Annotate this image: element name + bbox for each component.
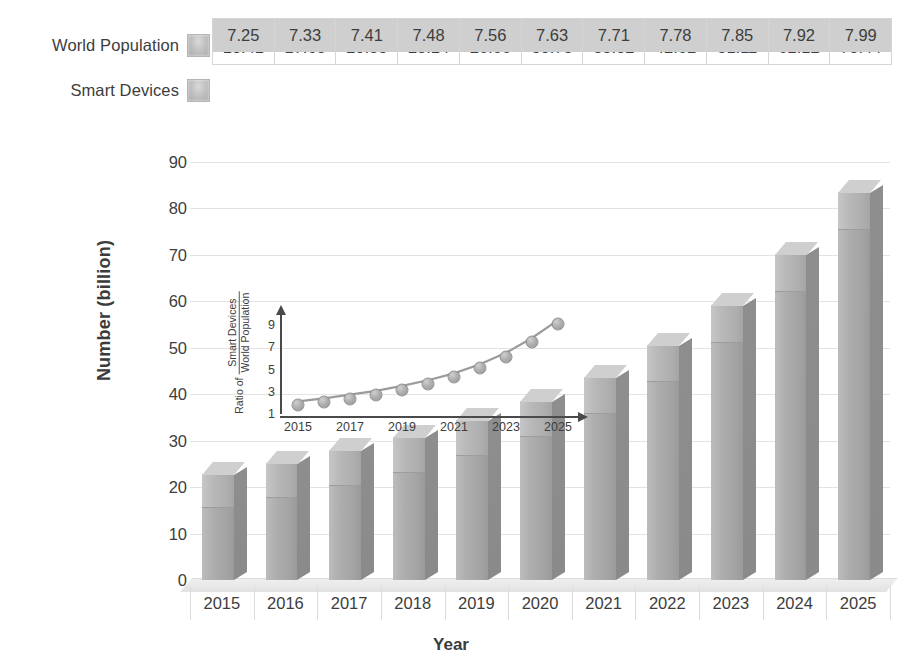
world-population-cell: 7.85 bbox=[707, 19, 769, 52]
inset-data-point bbox=[422, 378, 435, 391]
x-tick-label: 2021 bbox=[585, 594, 622, 613]
inset-y-tick-label: 9 bbox=[268, 318, 275, 332]
inset-plot-area: 13579 201520172019202120232025 bbox=[280, 314, 590, 418]
x-tick-divider bbox=[826, 586, 827, 620]
x-axis-title: Year bbox=[0, 635, 902, 655]
data-table: 7.257.337.417.487.567.637.717.787.857.92… bbox=[212, 18, 892, 113]
legend-label-world-population: World Population bbox=[52, 36, 179, 55]
y-tick-label: 50 bbox=[147, 338, 187, 357]
legend-item-smart-devices: Smart Devices bbox=[70, 79, 210, 102]
bar-segment-world-population bbox=[711, 305, 743, 342]
figure-root: World Population Smart Devices 7.257.337… bbox=[0, 0, 902, 665]
y-tick-label: 70 bbox=[147, 245, 187, 264]
inset-x-tick-label: 2021 bbox=[440, 420, 468, 434]
x-tick-label: 2017 bbox=[331, 594, 368, 613]
bar-side-face bbox=[234, 467, 247, 580]
bar-segment-world-population bbox=[266, 463, 298, 498]
x-tick-divider bbox=[317, 586, 318, 620]
bar-column bbox=[202, 475, 234, 580]
inset-data-point bbox=[396, 383, 409, 396]
bar-segment-world-population bbox=[202, 474, 234, 509]
legend-swatch-icon-world-population bbox=[187, 34, 210, 57]
world-population-cell: 7.99 bbox=[830, 19, 892, 52]
y-axis-title: Number (billion) bbox=[94, 201, 115, 421]
x-tick-label: 2023 bbox=[713, 594, 750, 613]
bar-front-face bbox=[838, 193, 870, 580]
bar-column bbox=[711, 306, 743, 580]
legend-item-world-population: World Population bbox=[52, 34, 210, 57]
inset-x-tick-label: 2017 bbox=[336, 420, 364, 434]
bar-column bbox=[647, 346, 679, 580]
y-tick-label: 40 bbox=[147, 385, 187, 404]
bar-side-face bbox=[297, 456, 310, 580]
bar-side-face bbox=[361, 443, 374, 580]
bar-side-face bbox=[743, 298, 756, 580]
x-tick-divider bbox=[190, 586, 191, 620]
inset-data-point bbox=[370, 388, 383, 401]
inset-data-point bbox=[526, 336, 539, 349]
world-population-cell: 7.56 bbox=[460, 19, 522, 52]
x-tick-label: 2015 bbox=[203, 594, 240, 613]
inset-data-point bbox=[474, 362, 487, 375]
x-tick-divider bbox=[890, 586, 891, 620]
bar-segment-world-population bbox=[647, 345, 679, 382]
main-chart: Number (billion) 0102030405060708090 201… bbox=[0, 150, 902, 665]
x-tick-divider bbox=[763, 586, 764, 620]
x-tick-label: 2024 bbox=[776, 594, 813, 613]
inset-ylabel-numerator: Smart Devices bbox=[227, 297, 239, 369]
y-tick-label: 60 bbox=[147, 292, 187, 311]
world-population-cell: 7.63 bbox=[522, 19, 584, 52]
bar-front-face bbox=[775, 255, 807, 580]
inset-y-tick-label: 5 bbox=[268, 363, 275, 377]
x-tick-divider bbox=[572, 586, 573, 620]
x-tick-divider bbox=[508, 586, 509, 620]
world-population-cell: 7.48 bbox=[398, 19, 460, 52]
bar-column bbox=[329, 451, 361, 580]
y-tick-label: 10 bbox=[147, 524, 187, 543]
x-tick-divider bbox=[381, 586, 382, 620]
inset-data-point bbox=[448, 371, 461, 384]
x-tick-label: 2016 bbox=[267, 594, 304, 613]
inset-y-tick-label: 3 bbox=[268, 385, 275, 399]
x-tick-divider bbox=[445, 586, 446, 620]
legend-label-smart-devices: Smart Devices bbox=[70, 81, 179, 100]
inset-ratio-chart: Ratio of Smart Devices World Population … bbox=[222, 310, 597, 458]
inset-data-point bbox=[318, 396, 331, 409]
bar-segment-world-population bbox=[775, 254, 807, 292]
bar-side-face bbox=[616, 370, 629, 580]
inset-y-tick-label: 1 bbox=[268, 407, 275, 421]
inset-x-tick-label: 2019 bbox=[388, 420, 416, 434]
legend-swatch-icon-smart-devices bbox=[187, 79, 210, 102]
bar-side-face bbox=[679, 338, 692, 580]
bar-side-face bbox=[806, 247, 819, 580]
inset-x-tick-label: 2025 bbox=[544, 420, 572, 434]
world-population-cell: 7.71 bbox=[583, 19, 645, 52]
inset-ylabel-prefix: Ratio of bbox=[233, 378, 245, 414]
x-tick-divider bbox=[699, 586, 700, 620]
inset-ylabel-fraction: Smart Devices World Population bbox=[227, 291, 252, 375]
inset-data-point bbox=[552, 318, 565, 331]
x-tick-label: 2022 bbox=[649, 594, 686, 613]
inset-y-tick-label: 7 bbox=[268, 340, 275, 354]
world-population-cell: 7.78 bbox=[645, 19, 707, 52]
bar-column bbox=[838, 193, 870, 580]
legend: World Population Smart Devices bbox=[10, 18, 210, 113]
bar-side-face bbox=[870, 184, 883, 580]
bar-column bbox=[393, 438, 425, 580]
y-tick-label: 80 bbox=[147, 199, 187, 218]
x-tick-label: 2020 bbox=[522, 594, 559, 613]
inset-x-tick-label: 2023 bbox=[492, 420, 520, 434]
world-population-cell: 7.92 bbox=[769, 19, 831, 52]
x-tick-label: 2025 bbox=[840, 594, 877, 613]
world-population-cell: 7.41 bbox=[336, 19, 398, 52]
y-tick-label: 90 bbox=[147, 153, 187, 172]
inset-x-tick-label: 2015 bbox=[284, 420, 312, 434]
y-tick-label: 20 bbox=[147, 478, 187, 497]
inset-ylabel-denominator: World Population bbox=[240, 291, 252, 375]
x-tick-divider bbox=[254, 586, 255, 620]
inset-data-point bbox=[292, 399, 305, 412]
inset-data-point bbox=[500, 350, 513, 363]
inset-y-axis-title: Ratio of Smart Devices World Population bbox=[227, 277, 252, 427]
bar-column bbox=[775, 255, 807, 580]
world-population-cell: 7.25 bbox=[212, 19, 275, 52]
